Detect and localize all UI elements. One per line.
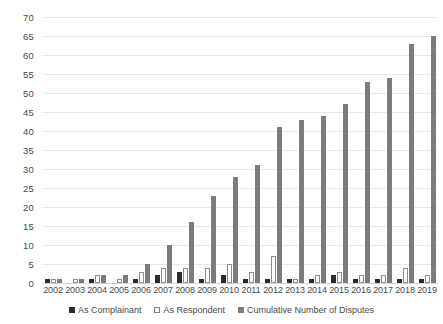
bar-group-2017 bbox=[372, 17, 394, 283]
x-tick-label-2005: 2005 bbox=[109, 285, 129, 295]
x-tick-label-2015: 2015 bbox=[329, 285, 349, 295]
bar-2015-series-0 bbox=[331, 275, 336, 283]
bar-group-2004 bbox=[86, 17, 108, 283]
bar-2006-series-1 bbox=[139, 272, 144, 283]
bar-2014-series-1 bbox=[315, 275, 320, 283]
bar-group-2019 bbox=[416, 17, 438, 283]
bar-2002-series-2 bbox=[57, 279, 62, 283]
bar-group-2015 bbox=[328, 17, 350, 283]
bar-2015-series-2 bbox=[343, 104, 348, 283]
bar-2013-series-2 bbox=[299, 120, 304, 283]
x-tick-label-2013: 2013 bbox=[285, 285, 305, 295]
bar-2016-series-0 bbox=[353, 279, 358, 283]
plot-area bbox=[42, 17, 438, 283]
bar-2007-series-0 bbox=[155, 275, 160, 283]
bar-2016-series-1 bbox=[359, 275, 364, 283]
bar-2009-series-0 bbox=[199, 279, 204, 283]
x-tick-label-2002: 2002 bbox=[43, 285, 63, 295]
bar-group-2018 bbox=[394, 17, 416, 283]
y-tick-label-40: 40 bbox=[23, 126, 34, 137]
bar-2011-series-1 bbox=[249, 272, 254, 283]
x-tick-label-2016: 2016 bbox=[351, 285, 371, 295]
x-tick-label-2017: 2017 bbox=[373, 285, 393, 295]
x-tick-label-2009: 2009 bbox=[197, 285, 217, 295]
bar-2002-series-1 bbox=[51, 279, 56, 283]
bar-group-2007 bbox=[152, 17, 174, 283]
bar-group-2003 bbox=[64, 17, 86, 283]
bar-chart: 0510152025303540455055606570 20022003200… bbox=[0, 0, 443, 324]
bar-2008-series-2 bbox=[189, 222, 194, 283]
bar-2003-series-1 bbox=[73, 279, 78, 283]
x-tick-label-2008: 2008 bbox=[175, 285, 195, 295]
bar-2009-series-2 bbox=[211, 196, 216, 283]
bar-2010-series-1 bbox=[227, 264, 232, 283]
bar-2013-series-1 bbox=[293, 279, 298, 283]
bar-2019-series-1 bbox=[425, 275, 430, 283]
bar-2002-series-0 bbox=[45, 279, 50, 283]
legend-label-1: As Respondent bbox=[163, 305, 225, 315]
bar-2015-series-1 bbox=[337, 272, 342, 283]
chart-legend: As ComplainantAs RespondentCumulative Nu… bbox=[0, 305, 443, 315]
x-tick-label-2007: 2007 bbox=[153, 285, 173, 295]
y-axis-labels: 0510152025303540455055606570 bbox=[0, 17, 38, 283]
legend-item-2[interactable]: Cumulative Number of Disputes bbox=[238, 305, 374, 315]
x-tick-label-2012: 2012 bbox=[263, 285, 283, 295]
bar-group-2009 bbox=[196, 17, 218, 283]
legend-swatch-icon-1 bbox=[154, 307, 160, 313]
bar-2012-series-1 bbox=[271, 256, 276, 283]
bar-2009-series-1 bbox=[205, 268, 210, 283]
bar-2017-series-1 bbox=[381, 275, 386, 283]
y-tick-label-65: 65 bbox=[23, 31, 34, 42]
y-tick-label-10: 10 bbox=[23, 240, 34, 251]
gridline-0 bbox=[42, 283, 438, 284]
bar-2017-series-2 bbox=[387, 78, 392, 283]
bar-group-2013 bbox=[284, 17, 306, 283]
bar-2006-series-0 bbox=[133, 279, 138, 283]
bar-2004-series-0 bbox=[89, 279, 94, 283]
bar-2010-series-0 bbox=[221, 275, 226, 283]
x-tick-label-2011: 2011 bbox=[242, 285, 261, 295]
bar-2010-series-2 bbox=[233, 177, 238, 283]
bar-2004-series-2 bbox=[101, 275, 106, 283]
legend-item-0[interactable]: As Complainant bbox=[69, 305, 142, 315]
x-tick-label-2003: 2003 bbox=[65, 285, 85, 295]
y-tick-label-45: 45 bbox=[23, 107, 34, 118]
bar-2017-series-0 bbox=[375, 279, 380, 283]
bar-2018-series-1 bbox=[403, 268, 408, 283]
bar-group-2016 bbox=[350, 17, 372, 283]
bar-group-2011 bbox=[240, 17, 262, 283]
bar-2019-series-2 bbox=[431, 36, 436, 283]
y-tick-label-35: 35 bbox=[23, 145, 34, 156]
y-tick-label-20: 20 bbox=[23, 202, 34, 213]
bar-group-2005 bbox=[108, 17, 130, 283]
legend-swatch-icon-0 bbox=[69, 307, 75, 313]
legend-item-1[interactable]: As Respondent bbox=[154, 305, 225, 315]
bar-2006-series-2 bbox=[145, 264, 150, 283]
x-tick-label-2014: 2014 bbox=[307, 285, 327, 295]
bar-2008-series-1 bbox=[183, 268, 188, 283]
bar-2011-series-2 bbox=[255, 165, 260, 283]
bar-2004-series-1 bbox=[95, 275, 100, 283]
y-tick-label-30: 30 bbox=[23, 164, 34, 175]
x-tick-label-2018: 2018 bbox=[395, 285, 415, 295]
bar-2012-series-0 bbox=[265, 279, 270, 283]
bar-groups bbox=[42, 17, 438, 283]
bar-2005-series-1 bbox=[117, 279, 122, 283]
x-tick-label-2019: 2019 bbox=[417, 285, 437, 295]
bar-2005-series-2 bbox=[123, 275, 128, 283]
legend-label-0: As Complainant bbox=[78, 305, 142, 315]
y-tick-label-60: 60 bbox=[23, 50, 34, 61]
bar-2018-series-0 bbox=[397, 279, 402, 283]
bar-2013-series-0 bbox=[287, 279, 292, 283]
bar-2012-series-2 bbox=[277, 127, 282, 283]
x-tick-label-2004: 2004 bbox=[87, 285, 107, 295]
x-tick-label-2006: 2006 bbox=[131, 285, 151, 295]
bar-2014-series-0 bbox=[309, 279, 314, 283]
bar-2008-series-0 bbox=[177, 272, 182, 283]
bar-2011-series-0 bbox=[243, 279, 248, 283]
legend-swatch-icon-2 bbox=[238, 307, 244, 313]
bar-2016-series-2 bbox=[365, 82, 370, 283]
legend-label-2: Cumulative Number of Disputes bbox=[247, 305, 374, 315]
y-tick-label-50: 50 bbox=[23, 88, 34, 99]
bar-group-2006 bbox=[130, 17, 152, 283]
